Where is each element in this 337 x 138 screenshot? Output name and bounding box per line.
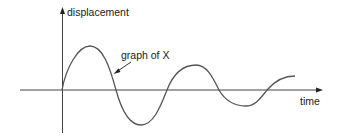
- graph-of-x-curve: [62, 46, 295, 125]
- x-axis-label: time: [300, 96, 320, 107]
- x-axis: [20, 88, 323, 93]
- x-axis-arrowhead-icon: [316, 88, 323, 93]
- diagram: displacement graph of X time: [0, 0, 337, 138]
- y-axis-label: displacement: [67, 7, 129, 18]
- y-axis-arrowhead-icon: [60, 7, 65, 14]
- curve-annotation-label: graph of X: [121, 50, 169, 61]
- y-axis: [60, 7, 65, 133]
- annotation-arrow: [114, 62, 132, 74]
- diagram-svg: [0, 0, 337, 138]
